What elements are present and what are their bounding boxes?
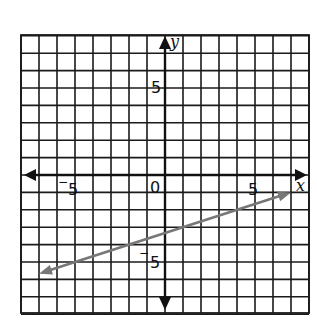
y-neg5-minus: − bbox=[139, 246, 149, 260]
x-tick-neg5: 5 bbox=[68, 180, 78, 199]
y-tick-neg5: 5 bbox=[150, 253, 160, 272]
y-axis-label: y bbox=[169, 32, 180, 51]
y-axis-bottom-arrow-icon bbox=[159, 297, 171, 310]
x-axis-left-arrow-icon bbox=[24, 169, 36, 181]
y-tick-pos5: 5 bbox=[151, 78, 161, 97]
line-left-arrow-icon bbox=[39, 265, 53, 275]
coordinate-plane: y x 0 − 5 5 5 − 5 bbox=[0, 0, 317, 336]
origin-label: 0 bbox=[150, 178, 160, 197]
x-neg5-minus: − bbox=[58, 175, 68, 189]
x-tick-pos5: 5 bbox=[248, 180, 258, 199]
line-right-arrow-icon bbox=[277, 192, 291, 202]
x-axis-label: x bbox=[296, 176, 305, 195]
